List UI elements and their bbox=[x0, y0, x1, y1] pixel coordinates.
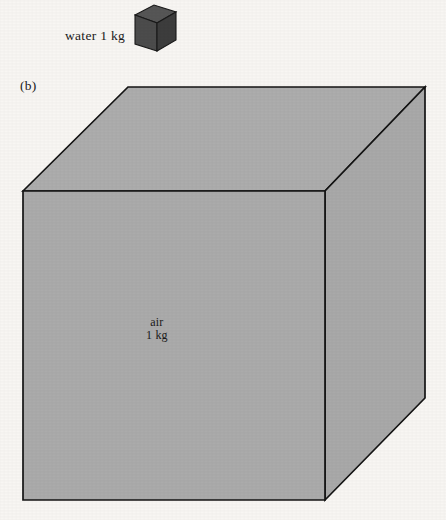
air-cube-group bbox=[23, 87, 425, 500]
figure-illustration bbox=[0, 0, 446, 520]
figure-container: (b) water 1 kg air1 kg bbox=[0, 0, 446, 520]
water-cube-label: water 1 kg bbox=[65, 28, 125, 43]
air-cube-label: air1 kg bbox=[146, 316, 168, 343]
panel-label: (b) bbox=[20, 78, 36, 93]
air-cube-front-face bbox=[23, 191, 325, 500]
air-cube-label-line-1: air bbox=[150, 315, 163, 329]
water-cube-group bbox=[135, 5, 176, 51]
air-cube-label-line-2: 1 kg bbox=[146, 329, 168, 342]
